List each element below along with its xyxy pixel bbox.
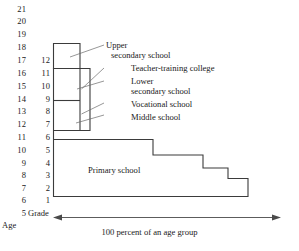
label-teacher-training-college: Teacher-training college <box>131 63 214 73</box>
upper-secondary-school-box <box>54 44 81 69</box>
education-system-diagram: 21 20 19 18 17 16 15 14 13 12 11 10 9 8 … <box>0 0 299 251</box>
label-primary-school: Primary school <box>88 165 140 175</box>
primary-school-staircase <box>54 131 249 197</box>
label-lower-secondary-line1: Lower <box>131 76 153 86</box>
leader-line-teacher-training <box>82 68 105 89</box>
label-upper-secondary-line1: Upper <box>106 40 127 50</box>
leader-line-vocational <box>82 103 105 114</box>
age-group-arrow-head-left <box>53 215 62 221</box>
age-group-arrow-head-right <box>272 215 281 221</box>
teacher-training-college-box <box>54 69 91 131</box>
label-lower-secondary-line2: secondary school <box>131 86 190 96</box>
age-group-caption: 100 percent of an age group <box>0 228 299 237</box>
label-upper-secondary-line2: secondary school <box>111 50 170 60</box>
diagram-vector-layer <box>0 0 299 251</box>
label-vocational-school: Vocational school <box>131 99 192 109</box>
leader-line-upper-secondary <box>70 45 104 57</box>
label-middle-school: Middle school <box>131 112 180 122</box>
